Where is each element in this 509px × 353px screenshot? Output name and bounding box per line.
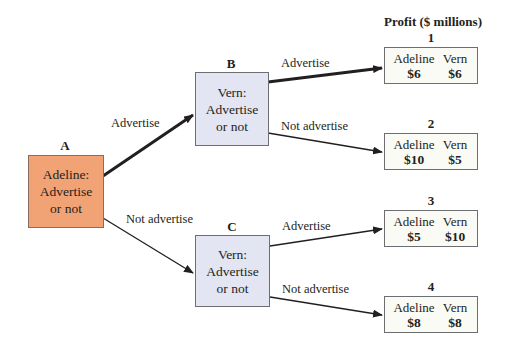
node-c-line2: Advertise — [206, 263, 258, 280]
outcome-3-p1-value: $5 — [391, 229, 437, 244]
edge-label-b-advertise: Advertise — [281, 56, 330, 71]
outcome-2-box: Adeline$10 Vern$5 — [384, 133, 478, 170]
node-c-line3: or not — [217, 280, 249, 297]
decision-node-a: Adeline: Advertise or not — [28, 155, 104, 228]
outcome-4-p1-name: Adeline — [391, 300, 437, 315]
outcome-2-number: 2 — [384, 116, 478, 132]
node-b-line2: Advertise — [206, 101, 258, 118]
outcome-3-p2-value: $10 — [437, 229, 473, 244]
outcome-4-p1-value: $8 — [391, 315, 437, 330]
decision-node-b: Vern: Advertise or not — [195, 72, 269, 146]
outcome-3-box: Adeline$5 Vern$10 — [384, 210, 478, 247]
decision-node-c: Vern: Advertise or not — [195, 235, 270, 307]
outcome-1-p2-value: $6 — [437, 66, 473, 81]
node-c-label: C — [212, 219, 252, 235]
outcome-3-p1-name: Adeline — [391, 214, 437, 229]
outcome-1-p2-name: Vern — [437, 51, 473, 66]
outcome-2-p1-value: $10 — [391, 152, 437, 167]
edge-label-b-not-advertise: Not advertise — [281, 119, 348, 134]
edge-label-a-advertise: Advertise — [111, 116, 160, 131]
outcome-1-p1-name: Adeline — [391, 51, 437, 66]
outcome-2-p1-name: Adeline — [391, 137, 437, 152]
node-c-player: Vern: — [218, 246, 247, 263]
outcome-1-p1-value: $6 — [391, 66, 437, 81]
node-a-player: Adeline: — [43, 166, 90, 183]
node-a-line3: or not — [50, 200, 82, 217]
outcome-3-p2-name: Vern — [437, 214, 473, 229]
outcome-4-p2-value: $8 — [437, 315, 473, 330]
outcome-4-box: Adeline$8 Vern$8 — [384, 296, 478, 333]
outcome-3-number: 3 — [384, 193, 478, 209]
node-b-label: B — [211, 56, 251, 72]
node-b-line3: or not — [216, 118, 248, 135]
edge-b-to-2 — [268, 133, 382, 152]
edge-c-to-4 — [270, 297, 382, 315]
node-a-line2: Advertise — [40, 183, 92, 200]
outcome-2-p2-name: Vern — [437, 137, 473, 152]
edge-label-c-advertise: Advertise — [282, 219, 331, 234]
outcome-1-number: 1 — [384, 30, 478, 46]
outcome-2-p2-value: $5 — [437, 152, 473, 167]
profit-title: Profit ($ millions) — [384, 14, 482, 30]
edge-label-a-not-advertise: Not advertise — [126, 212, 193, 227]
node-a-label: A — [45, 138, 85, 154]
edge-label-c-not-advertise: Not advertise — [282, 282, 349, 297]
outcome-4-number: 4 — [384, 279, 478, 295]
outcome-1-box: Adeline$6 Vern$6 — [384, 47, 478, 84]
outcome-4-p2-name: Vern — [437, 300, 473, 315]
node-b-player: Vern: — [217, 84, 246, 101]
